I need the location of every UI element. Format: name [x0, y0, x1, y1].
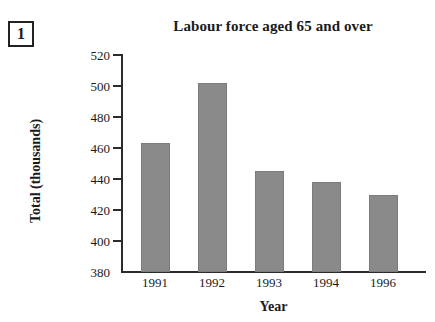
y-axis-tick-label: 440: [76, 173, 110, 186]
y-axis-tick: [113, 209, 122, 211]
y-axis-tick-label: 460: [76, 142, 110, 155]
y-axis-tick: [113, 240, 122, 242]
y-axis-tick: [113, 116, 122, 118]
x-axis-tick-label: 1996: [355, 276, 412, 289]
y-axis-tick: [113, 54, 122, 56]
y-axis-tick-label: 500: [76, 80, 110, 93]
y-axis-tick: [113, 147, 122, 149]
bar-1994: [312, 182, 341, 272]
bar-1996: [369, 195, 398, 273]
x-axis-tick-label: 1994: [298, 276, 355, 289]
y-axis-tick: [113, 85, 122, 87]
x-axis-tick-label: 1991: [127, 276, 184, 289]
y-axis-tick-label: 400: [76, 235, 110, 248]
bar-chart-plot-area: 520 500 480 460 440 420 400 380 1991 199…: [0, 0, 435, 322]
y-axis-tick-label: 520: [76, 49, 110, 62]
y-axis-tick-label: 420: [76, 204, 110, 217]
y-axis-tick-label: 380: [76, 266, 110, 279]
bar-1993: [255, 171, 284, 272]
y-axis-title: Total (thousands): [28, 91, 44, 251]
bar-1991: [141, 143, 170, 272]
x-axis-tick-label: 1993: [241, 276, 298, 289]
x-axis-tick-label: 1992: [184, 276, 241, 289]
x-axis-title: Year: [121, 299, 426, 315]
bar-1992: [198, 83, 227, 272]
y-axis-tick: [113, 178, 122, 180]
y-axis-tick-label: 480: [76, 111, 110, 124]
